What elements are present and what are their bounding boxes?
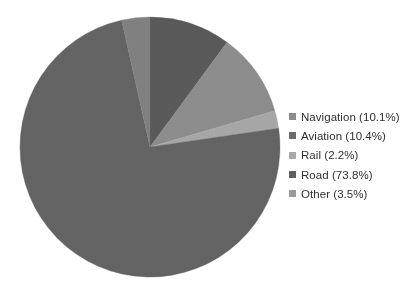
legend-swatch-icon [289,113,296,120]
legend-item[interactable]: Road (73.8%) [287,165,407,184]
legend-swatch-icon [289,190,296,197]
legend-swatch-icon [289,132,296,139]
legend-item-label: Other (3.5%) [301,188,367,200]
legend-item[interactable]: Other (3.5%) [287,184,407,203]
chart-legend: Navigation (10.1%)Aviation (10.4%)Rail (… [287,107,407,203]
pie-chart-figure: Navigation (10.1%)Aviation (10.4%)Rail (… [0,0,410,297]
legend-item-label: Road (73.8%) [301,169,373,181]
legend-item-label: Rail (2.2%) [301,149,358,161]
legend-item[interactable]: Aviation (10.4%) [287,126,407,145]
legend-item-label: Navigation (10.1%) [301,111,400,123]
legend-swatch-icon [289,171,296,178]
pie-slice-group [20,17,280,277]
legend-swatch-icon [289,152,296,159]
legend-item[interactable]: Navigation (10.1%) [287,107,407,126]
legend-item-label: Aviation (10.4%) [301,130,386,142]
legend-item[interactable]: Rail (2.2%) [287,146,407,165]
